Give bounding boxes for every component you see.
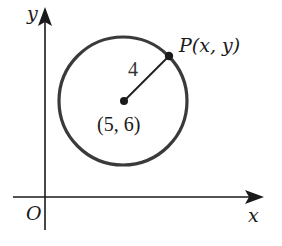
point-p <box>165 52 173 60</box>
x-axis-label: x <box>248 204 259 226</box>
origin-label: O <box>26 202 42 224</box>
point-p-label: P(x, y) <box>178 34 240 56</box>
coordinate-diagram: y x O 4 (5, 6) P(x, y) <box>0 0 282 246</box>
radius-label: 4 <box>128 58 138 80</box>
center-point <box>120 97 128 105</box>
y-axis-label: y <box>26 2 38 24</box>
center-label: (5, 6) <box>97 113 140 136</box>
